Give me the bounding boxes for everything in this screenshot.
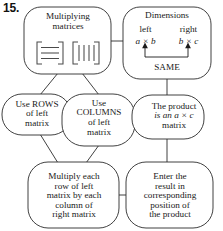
node-line: matrix bbox=[25, 119, 49, 129]
matrix-multiplication-flowchart: 15. Multiplying matrices bbox=[0, 0, 223, 231]
node-use-rows-label: Use ROWS of left matrix bbox=[4, 96, 70, 132]
dimensions-grid: left right a × b b × c bbox=[124, 23, 210, 47]
node-line: the product bbox=[149, 210, 191, 220]
matrix-columns-icon bbox=[70, 40, 102, 66]
node-line: right matrix bbox=[52, 210, 96, 220]
dimensions-same-label: SAME bbox=[124, 62, 210, 74]
dimensions-right-label: right bbox=[180, 24, 197, 34]
node-enter-result-label: Enter the result in corresponding positi… bbox=[128, 166, 212, 226]
connector-use-rows-to-multiply bbox=[40, 134, 58, 163]
node-multiplying-matrices-label: Multiplying matrices bbox=[26, 10, 110, 34]
matrix-rows-icon bbox=[34, 40, 66, 66]
connector-use-columns-to-multiply bbox=[86, 145, 99, 163]
node-dimensions-title: Dimensions bbox=[124, 10, 210, 22]
dimensions-left-value: a × b bbox=[136, 36, 156, 46]
node-line: matrix bbox=[162, 121, 186, 131]
connector-multiplying-to-use-rows bbox=[40, 73, 58, 95]
matrix-icons-group bbox=[26, 38, 110, 68]
node-line: matrices bbox=[52, 22, 83, 32]
dimensions-right-value: b × c bbox=[179, 36, 198, 46]
node-multiply-each-label: Multiply each row of left matrix by each… bbox=[30, 166, 118, 226]
dimensions-left-label: left bbox=[139, 24, 151, 34]
connector-multiplying-to-use-columns bbox=[82, 73, 99, 95]
node-product-label: The product is an a × c matrix bbox=[134, 98, 214, 134]
node-line: matrix bbox=[87, 128, 111, 138]
node-use-columns-label: Use COLUMNS of left matrix bbox=[64, 96, 134, 140]
